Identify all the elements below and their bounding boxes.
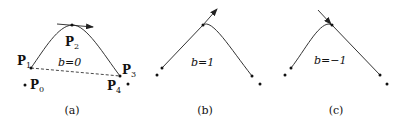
curve-c (291, 24, 380, 75)
label-p4: P4 (107, 79, 121, 95)
point-b-4 (251, 75, 254, 78)
tangent-arrow-a (57, 24, 93, 27)
label-p2: P2 (65, 35, 79, 51)
point-c-4 (379, 74, 382, 77)
parameter-label-b: b=1 (191, 56, 214, 69)
tangent-arrow-b (203, 9, 217, 25)
point-b-2 (202, 24, 205, 27)
tangent-arrow-c (318, 10, 331, 24)
point-c-1 (290, 67, 293, 70)
point-b-3 (259, 83, 262, 86)
point-c-3 (386, 83, 389, 86)
panel-a: P1 P0 P2 P3 P4 b=0 (a) (17, 24, 136, 118)
dashed-chord (31, 68, 120, 76)
point-b-0 (156, 74, 159, 77)
bias-curve-figure: P1 P0 P2 P3 P4 b=0 (a) b=1 (b) b=−1 (c) (0, 0, 405, 124)
label-p3: P3 (122, 63, 136, 79)
caption-b: (b) (197, 104, 213, 117)
panel-c: b=−1 (c) (284, 10, 389, 117)
label-p1: P1 (17, 54, 31, 70)
label-p0: P0 (30, 78, 44, 94)
parameter-label-a: b=0 (58, 56, 81, 69)
panel-b: b=1 (b) (156, 9, 262, 117)
point-b-1 (161, 67, 164, 70)
caption-a: (a) (64, 104, 79, 117)
parameter-label-c: b=−1 (314, 54, 346, 67)
point-p2 (71, 24, 74, 27)
point-c-2 (331, 24, 334, 27)
point-p0 (24, 84, 27, 87)
point-c-0 (284, 74, 287, 77)
point-p3 (127, 83, 130, 86)
caption-c: (c) (329, 104, 344, 117)
